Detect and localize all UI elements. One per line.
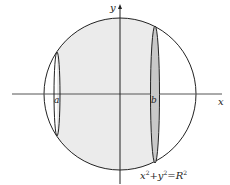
circle-equation: x2+y2=R2 <box>140 169 187 181</box>
point-b-label: b <box>151 95 157 105</box>
y-axis-label: y <box>109 2 116 13</box>
x-axis-label: x <box>218 96 224 107</box>
shaded-region <box>57 0 155 185</box>
y-axis-arrow-icon <box>118 4 122 9</box>
point-a-label: a <box>54 95 59 105</box>
sphere-slice-diagram: y x a b x2+y2=R2 <box>0 0 230 185</box>
